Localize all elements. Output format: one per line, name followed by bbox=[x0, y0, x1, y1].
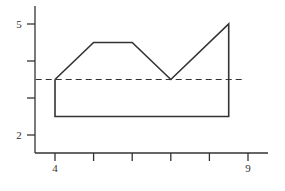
x-ticks bbox=[55, 153, 248, 161]
closed-polygon bbox=[55, 24, 229, 117]
chart: 5 2 4 9 bbox=[0, 0, 285, 191]
y-tick-label-2: 2 bbox=[16, 129, 22, 141]
x-tick-label-9: 9 bbox=[245, 162, 251, 174]
x-tick-label-4: 4 bbox=[52, 162, 58, 174]
y-tick-label-5: 5 bbox=[16, 18, 22, 30]
y-ticks bbox=[27, 24, 35, 135]
series-layer bbox=[36, 24, 244, 117]
